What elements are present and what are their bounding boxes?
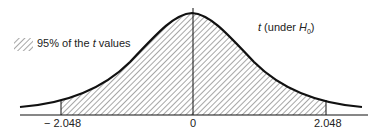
legend-swatch — [14, 38, 33, 51]
legend-label: 95% of the t values — [37, 37, 131, 49]
t-distribution-diagram — [0, 0, 382, 133]
curve-label: t (under H0) — [258, 21, 315, 35]
tick-left: − 2.048 — [44, 117, 81, 129]
tick-right: 2.048 — [314, 117, 342, 129]
tick-zero: 0 — [190, 117, 196, 129]
